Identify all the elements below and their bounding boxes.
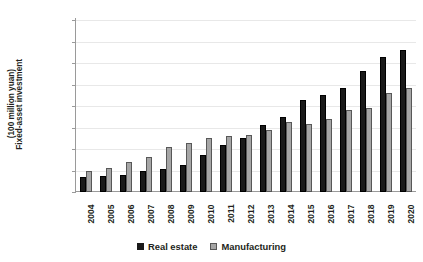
bar-group <box>216 20 236 192</box>
bar-manufacturing <box>186 143 192 192</box>
bar-group <box>376 20 396 192</box>
bar-manufacturing <box>166 147 172 192</box>
bar-manufacturing <box>326 119 332 192</box>
bar-group <box>356 20 376 192</box>
bar-manufacturing <box>226 136 232 192</box>
x-axis-tick-label: 2017 <box>346 204 356 223</box>
x-axis-tick-label: 2015 <box>306 204 316 223</box>
bar-manufacturing <box>266 130 272 192</box>
legend-swatch-icon-real-estate <box>137 243 144 250</box>
bar-chart-figure: (100 million yuan) Fixed-asset investmen… <box>0 0 423 262</box>
y-axis-title: (100 million yuan) Fixed-asset investmen… <box>2 14 28 194</box>
legend-item-manufacturing: Manufacturing <box>210 241 286 252</box>
plot-area: 02,0004,0006,0008,00010,00012,00014,0001… <box>76 20 416 192</box>
bar-manufacturing <box>406 88 412 192</box>
bar-manufacturing <box>286 122 292 192</box>
x-axis-tick-cell: 2010 <box>196 192 216 236</box>
bar-group <box>176 20 196 192</box>
bar-group <box>156 20 176 192</box>
x-axis-tick-label: 2016 <box>326 204 336 223</box>
chart-legend: Real estate Manufacturing <box>0 241 423 252</box>
x-axis-tick-label: 2013 <box>266 204 276 223</box>
bar-manufacturing <box>386 93 392 192</box>
bar-manufacturing <box>246 135 252 192</box>
x-axis-tick-label: 2009 <box>186 204 196 223</box>
bar-group <box>96 20 116 192</box>
x-axis-tick-cell: 2020 <box>396 192 416 236</box>
bar-group <box>316 20 336 192</box>
x-axis-tick-cell: 2017 <box>336 192 356 236</box>
bar-manufacturing <box>366 108 372 192</box>
bar-group <box>116 20 136 192</box>
x-axis-tick-cell: 2018 <box>356 192 376 236</box>
x-axis-tick-label: 2011 <box>226 204 236 222</box>
x-axis-tick-label: 2007 <box>146 204 156 223</box>
x-axis-tick-label: 2004 <box>86 204 96 223</box>
x-axis-tick-label: 2010 <box>206 204 216 223</box>
x-axis-tick-cell: 2011 <box>216 192 236 236</box>
legend-swatch-icon-manufacturing <box>210 243 217 250</box>
bar-manufacturing <box>206 138 212 192</box>
x-axis-tick-label: 2008 <box>166 204 176 223</box>
bar-manufacturing <box>106 168 112 192</box>
bar-group <box>136 20 156 192</box>
x-axis-tick-cell: 2006 <box>116 192 136 236</box>
bar-group <box>276 20 296 192</box>
x-axis-tick-cell: 2014 <box>276 192 296 236</box>
x-axis-tick-cell: 2012 <box>236 192 256 236</box>
bar-manufacturing <box>346 110 352 192</box>
x-axis-tick-label: 2005 <box>106 204 116 223</box>
x-axis-tick-cell: 2008 <box>156 192 176 236</box>
legend-label-manufacturing: Manufacturing <box>221 241 286 252</box>
x-axis-tick-label: 2006 <box>126 204 136 223</box>
bar-group <box>236 20 256 192</box>
bar-group <box>196 20 216 192</box>
x-axis-tick-label: 2019 <box>386 204 396 223</box>
x-axis-tick-cell: 2016 <box>316 192 336 236</box>
x-axis-tick-label: 2012 <box>246 204 256 223</box>
legend-label-real-estate: Real estate <box>148 241 198 252</box>
x-axis-tick-cell: 2004 <box>76 192 96 236</box>
bar-group <box>76 20 96 192</box>
bar-group <box>336 20 356 192</box>
bar-group <box>256 20 276 192</box>
x-axis-tick-cell: 2015 <box>296 192 316 236</box>
bars-layer <box>76 20 416 192</box>
x-axis-tick-label: 2018 <box>366 204 376 223</box>
y-axis-title-line-1: Fixed-asset investment <box>15 59 23 150</box>
legend-item-real-estate: Real estate <box>137 241 198 252</box>
x-axis-tick-label: 2020 <box>406 204 416 223</box>
bar-group <box>396 20 416 192</box>
x-axis-tick-label: 2014 <box>286 204 296 223</box>
x-axis-tick-cell: 2019 <box>376 192 396 236</box>
bar-manufacturing <box>126 162 132 192</box>
bar-manufacturing <box>306 124 312 192</box>
bar-manufacturing <box>86 171 92 193</box>
x-axis-tick-cell: 2007 <box>136 192 156 236</box>
bar-group <box>296 20 316 192</box>
x-axis-tick-cell: 2009 <box>176 192 196 236</box>
x-axis-tick-labels: 2004200520062007200820092010201120122013… <box>76 192 416 236</box>
bar-manufacturing <box>146 157 152 192</box>
x-axis-tick-cell: 2005 <box>96 192 116 236</box>
x-axis-tick-cell: 2013 <box>256 192 276 236</box>
